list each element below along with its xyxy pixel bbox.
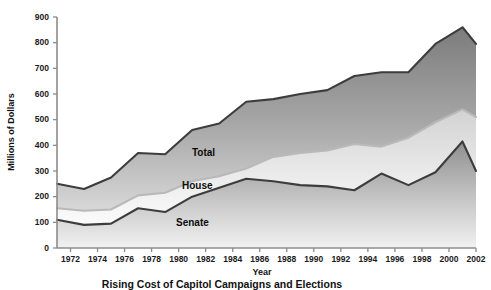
y-tick-label: 200 <box>35 191 49 201</box>
y-tick-label: 100 <box>35 217 49 227</box>
x-tick-label: 1988 <box>277 254 296 264</box>
x-tick-label: 1978 <box>142 254 161 264</box>
x-axis-tick-labels: 1972197419761978198019821984198619881990… <box>61 254 486 264</box>
figure-caption: Rising Cost of Capitol Campaigns and Ele… <box>102 278 343 290</box>
y-tick-label: 900 <box>35 12 49 22</box>
x-tick-label: 2000 <box>440 254 459 264</box>
x-tick-label: 1974 <box>88 254 107 264</box>
x-tick-label: 1982 <box>196 254 215 264</box>
x-tick-label: 1986 <box>250 254 269 264</box>
y-axis-title: Millions of Dollars <box>6 93 16 171</box>
y-tick-label: 500 <box>35 114 49 124</box>
x-tick-label: 1996 <box>385 254 404 264</box>
x-tick-label: 2002 <box>467 254 486 264</box>
area-bands <box>57 27 476 248</box>
chart-figure: 0100200300400500600700800900 19721974197… <box>0 0 491 290</box>
x-tick-label: 1994 <box>358 254 377 264</box>
series-label-house: House <box>182 180 213 191</box>
x-tick-label: 1984 <box>223 254 242 264</box>
y-tick-label: 600 <box>35 89 49 99</box>
x-tick-label: 1976 <box>115 254 134 264</box>
y-tick-label: 0 <box>44 243 49 253</box>
x-axis-title: Year <box>252 267 272 277</box>
y-tick-label: 400 <box>35 140 49 150</box>
series-label-total: Total <box>192 147 215 158</box>
x-tick-label: 1998 <box>412 254 431 264</box>
x-tick-label: 1980 <box>169 254 188 264</box>
x-tick-label: 1990 <box>304 254 323 264</box>
y-axis-tick-labels: 0100200300400500600700800900 <box>35 12 49 253</box>
y-tick-label: 800 <box>35 37 49 47</box>
series-label-senate: Senate <box>176 217 209 228</box>
stacked-area-chart: 0100200300400500600700800900 19721974197… <box>0 0 491 290</box>
x-tick-label: 1972 <box>61 254 80 264</box>
y-tick-label: 300 <box>35 166 49 176</box>
x-tick-label: 1992 <box>331 254 350 264</box>
y-tick-label: 700 <box>35 63 49 73</box>
